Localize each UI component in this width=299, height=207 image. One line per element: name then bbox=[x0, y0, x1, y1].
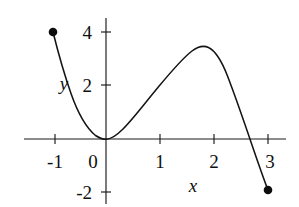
y-tick-label-4: 4 bbox=[83, 22, 93, 43]
x-axis-name: x bbox=[188, 175, 198, 196]
coordinate-plot: -1 0 1 2 3 4 2 -2 x y bbox=[0, 0, 299, 207]
x-tick-label-3: 3 bbox=[265, 151, 275, 172]
x-tick-label-neg1: -1 bbox=[47, 151, 63, 172]
right-endpoint-dot bbox=[264, 186, 273, 195]
y-tick-label-2: 2 bbox=[83, 75, 93, 96]
x-tick-label-0: 0 bbox=[88, 151, 98, 172]
x-tick-label-1: 1 bbox=[155, 151, 165, 172]
y-tick-label-neg2: -2 bbox=[76, 182, 92, 203]
graph-figure: -1 0 1 2 3 4 2 -2 x y bbox=[0, 0, 299, 207]
left-endpoint-dot bbox=[49, 28, 58, 37]
y-axis-name: y bbox=[58, 73, 69, 94]
x-tick-label-2: 2 bbox=[209, 151, 219, 172]
